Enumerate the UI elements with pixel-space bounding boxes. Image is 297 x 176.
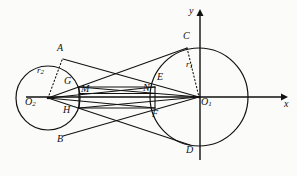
point-label-H: H [63,105,70,115]
r1-subscript: 1 [190,62,194,70]
y-axis-arrowhead [197,9,204,16]
radius-label-r2: r2 [37,66,44,76]
geometry-figure: A B C D E F G H M N O1 O2 r1 r2 x y [0,0,297,176]
point-marker-o2 [47,97,50,100]
point-label-E: E [157,72,163,82]
r2-subscript: 2 [41,68,45,76]
axis-label-y: y [189,6,193,16]
point-label-F: F [152,109,158,119]
radius-label-r1: r1 [186,60,193,70]
point-label-O1: O1 [201,97,212,108]
point-label-G: G [64,76,71,86]
point-label-M: M [81,84,89,94]
axis-label-x: x [284,99,288,109]
point-marker-o1 [198,96,201,99]
point-label-D: D [186,145,193,155]
point-label-C: C [183,31,190,41]
point-label-O2: O2 [25,97,36,108]
point-label-A: A [57,43,63,53]
o1-subscript: 1 [208,100,212,108]
dotted-radius-r1 [187,48,199,97]
point-label-B: B [57,134,63,144]
o2-subscript: 2 [32,100,36,108]
point-label-N: N [143,83,150,93]
